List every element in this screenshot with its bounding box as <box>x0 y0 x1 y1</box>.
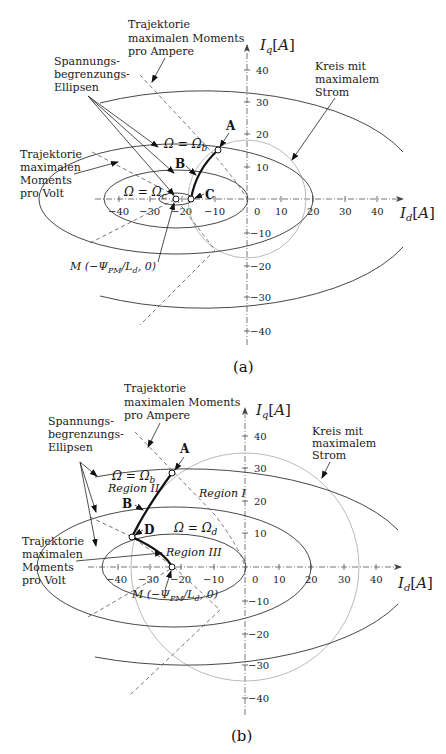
mtpa-label: Trajektorie maximalen Moments pro Ampere <box>124 382 244 422</box>
y-tick-label: −10 <box>250 228 271 239</box>
x-tick-label: 40 <box>371 206 384 217</box>
caption-b: (b) <box>231 727 252 745</box>
diagram-canvas: −40 −30 −20 −10 0 10 20 30 40 40 30 20 1… <box>0 0 446 754</box>
caption-a: (a) <box>233 358 254 376</box>
region-1-label: Region I <box>198 487 247 500</box>
y-tick-label: −40 <box>248 693 269 704</box>
x-tick-label: 20 <box>307 206 320 217</box>
y-tick-label: 20 <box>254 496 267 507</box>
y-tick-label: 10 <box>256 162 269 173</box>
omega-c-label: Ω = Ωc <box>123 185 167 201</box>
circle-label: Kreis mit maximalem Strom <box>312 425 380 462</box>
point-c-label: C <box>205 188 215 202</box>
x-tick-label: 0 <box>254 206 260 217</box>
voltage-ellipse-outer-top <box>100 91 403 152</box>
x-tick-label: 10 <box>275 206 288 217</box>
x-tick-label: 20 <box>305 574 318 585</box>
point-d-marker <box>129 534 135 540</box>
ellipses-label: Spannungs- begrenzungs- Ellipsen <box>48 415 127 454</box>
y-tick-label: 10 <box>254 528 267 539</box>
region-3-label: Region III <box>165 546 222 559</box>
omega-b-label: Ω = Ωb <box>163 137 208 153</box>
point-a-marker <box>215 147 221 153</box>
id-axis-label: Id[A] <box>397 574 433 593</box>
y-tick-label: −30 <box>250 292 271 303</box>
x-tick-label: −30 <box>139 206 160 217</box>
mtpv-trajectory-lower <box>90 199 176 243</box>
x-tick-label: −10 <box>203 574 224 585</box>
x-tick-label: 40 <box>370 574 383 585</box>
id-axis-label: Id[A] <box>399 204 435 223</box>
mtpa-label: Trajektorie maximalen Moments pro Ampere <box>128 18 248 58</box>
point-b-label: B <box>175 157 185 171</box>
y-tick-label: −10 <box>248 596 269 607</box>
point-m-label: M (−ΨPM/Ld, 0) <box>131 588 218 603</box>
point-b-label: B <box>122 497 132 511</box>
point-c-marker <box>188 196 194 202</box>
y-tick-label: 40 <box>256 65 269 76</box>
x-tick-label: −30 <box>138 574 159 585</box>
iq-axis-label: Iq[A] <box>259 36 295 55</box>
y-tick-label: −20 <box>248 629 269 640</box>
panel-a: −40 −30 −20 −10 0 10 20 30 40 40 30 20 1… <box>20 18 435 376</box>
y-tick-label: 40 <box>254 431 267 442</box>
y-tick-label: −30 <box>248 660 269 671</box>
y-tick-label: 20 <box>256 129 269 140</box>
x-tick-label: −20 <box>170 574 191 585</box>
point-m-marker <box>169 564 175 570</box>
y-tick-label: −40 <box>250 326 271 337</box>
panel-b: −40 −30 −20 −10 0 10 20 30 40 40 30 20 1… <box>22 382 433 745</box>
x-tick-label: 0 <box>252 574 258 585</box>
point-a-label: A <box>225 119 236 133</box>
point-a-marker <box>169 470 175 476</box>
x-tick-label: 30 <box>338 574 351 585</box>
mtpv-label: Trajektorie maximalen Moments pro Volt <box>20 148 86 200</box>
x-tick-label: 10 <box>273 574 286 585</box>
point-m-label: M (−ΨPM/Ld, 0) <box>69 260 156 275</box>
mtpv-trajectory <box>90 517 220 695</box>
x-tick-label: −40 <box>106 574 127 585</box>
x-tick-label: 30 <box>339 206 352 217</box>
circle-label: Kreis mit maximalem Strom <box>315 60 383 99</box>
y-tick-label: 30 <box>254 463 267 474</box>
point-a-label: A <box>179 442 190 456</box>
iq-axis-label: Iq[A] <box>255 401 291 420</box>
point-m-marker <box>173 196 179 202</box>
omega-d-label: Ω = Ωd <box>173 521 218 537</box>
ellipses-label: Spannungs- begrenzungs- Ellipsen <box>54 55 133 94</box>
region-2-label: Region II <box>107 482 160 495</box>
x-tick-label: −10 <box>204 206 225 217</box>
y-tick-label: −20 <box>250 261 271 272</box>
y-tick-label: 30 <box>256 97 269 108</box>
point-d-label: D <box>144 523 154 537</box>
